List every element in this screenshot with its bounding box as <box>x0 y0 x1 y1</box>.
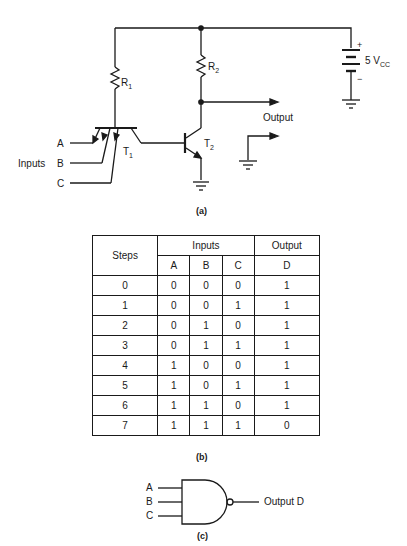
cell-d: 1 <box>254 376 319 396</box>
header-col-d: D <box>254 256 319 276</box>
table-row: 30111 <box>93 336 320 356</box>
cell-step: 7 <box>93 416 158 436</box>
table-row: 20101 <box>93 316 320 336</box>
cell-d: 1 <box>254 336 319 356</box>
gate-input-a-label: A <box>146 483 153 493</box>
cell-step: 6 <box>93 396 158 416</box>
input-a-label: A <box>57 139 64 149</box>
cell-a: 1 <box>158 376 190 396</box>
table-row: 51011 <box>93 376 320 396</box>
cell-a: 1 <box>158 356 190 376</box>
cell-c: 0 <box>222 396 254 416</box>
cell-d: 1 <box>254 396 319 416</box>
gate-input-c-label: C <box>146 511 153 521</box>
caption-b: (b) <box>196 452 208 462</box>
t1-label: T1 <box>123 147 133 161</box>
cell-b: 0 <box>190 356 222 376</box>
cell-a: 0 <box>158 276 190 296</box>
cell-a: 0 <box>158 316 190 336</box>
input-b-label: B <box>57 159 64 169</box>
cell-c: 1 <box>222 416 254 436</box>
cell-d: 1 <box>254 296 319 316</box>
cell-b: 0 <box>190 296 222 316</box>
cell-d: 1 <box>254 356 319 376</box>
table-row: 71110 <box>93 416 320 436</box>
caption-c: (c) <box>197 531 208 541</box>
cell-c: 0 <box>222 276 254 296</box>
header-steps: Steps <box>93 236 158 276</box>
vcc-rail <box>115 26 351 48</box>
header-col-a: A <box>158 256 190 276</box>
header-col-c: C <box>222 256 254 276</box>
cell-b: 1 <box>190 396 222 416</box>
gate-input-b-label: B <box>146 497 153 507</box>
cell-d: 1 <box>254 316 319 336</box>
header-output: Output <box>254 236 319 256</box>
table-row: 41001 <box>93 356 320 376</box>
resistor-r2-icon <box>197 28 205 128</box>
cell-step: 4 <box>93 356 158 376</box>
cell-a: 0 <box>158 296 190 316</box>
cell-a: 1 <box>158 416 190 436</box>
r1-label: R1 <box>121 78 132 92</box>
t2-label: T2 <box>204 139 214 153</box>
vcc-label: 5 VCC <box>365 56 390 70</box>
cell-b: 1 <box>190 336 222 356</box>
r2-label: R2 <box>208 62 219 76</box>
cell-step: 5 <box>93 376 158 396</box>
transistor-t2-icon <box>185 128 201 180</box>
input-c-label: C <box>57 179 64 189</box>
table-row: 10011 <box>93 296 320 316</box>
header-col-b: B <box>190 256 222 276</box>
table-row: 00001 <box>93 276 320 296</box>
ground-t2-icon <box>193 182 209 190</box>
header-inputs: Inputs <box>158 236 254 256</box>
table-row: 61101 <box>93 396 320 416</box>
cell-a: 0 <box>158 336 190 356</box>
cell-b: 0 <box>190 276 222 296</box>
cell-c: 1 <box>222 296 254 316</box>
output-arrow-icon <box>201 99 278 105</box>
plus-label: + <box>357 40 362 50</box>
output-label: Output <box>263 113 293 123</box>
cell-c: 0 <box>222 356 254 376</box>
caption-a: (a) <box>196 206 207 216</box>
minus-label: − <box>357 74 362 84</box>
gate-output-label: Output D <box>264 497 304 507</box>
cell-c: 1 <box>222 336 254 356</box>
resistor-r1-icon <box>111 28 119 128</box>
cell-step: 2 <box>93 316 158 336</box>
cell-c: 1 <box>222 376 254 396</box>
cell-b: 1 <box>190 416 222 436</box>
ground-battery-icon <box>342 100 360 108</box>
nand-gate-icon <box>158 480 259 524</box>
inputs-label: Inputs <box>18 159 45 169</box>
cell-c: 0 <box>222 316 254 336</box>
ground-reference-arrow-icon <box>239 133 278 169</box>
cell-d: 1 <box>254 276 319 296</box>
cell-b: 0 <box>190 376 222 396</box>
truth-table: Steps Inputs Output A B C D 00001 10011 … <box>92 235 320 436</box>
cell-step: 1 <box>93 296 158 316</box>
cell-b: 1 <box>190 316 222 336</box>
cell-step: 3 <box>93 336 158 356</box>
cell-step: 0 <box>93 276 158 296</box>
cell-a: 1 <box>158 396 190 416</box>
cell-d: 0 <box>254 416 319 436</box>
